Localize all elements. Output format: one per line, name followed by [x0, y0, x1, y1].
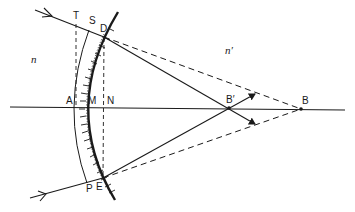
- refracted-ray-bottom: [103, 94, 255, 178]
- label-P: P: [86, 183, 93, 194]
- point-B: [299, 107, 303, 111]
- label-E: E: [96, 181, 103, 192]
- dashed-ray-top-to-B: [104, 37, 301, 109]
- label-D: D: [100, 23, 107, 34]
- point-B-prime: [227, 106, 231, 110]
- label-A: A: [66, 95, 73, 106]
- incident-ray-top-arrow-icon: [42, 8, 52, 17]
- label-S: S: [89, 15, 96, 26]
- optical-axis: [10, 107, 345, 110]
- label-N: N: [107, 95, 114, 106]
- label-B-prime: B′: [226, 94, 235, 105]
- label-T: T: [73, 10, 79, 21]
- dashed-ray-bottom-to-B: [103, 109, 301, 178]
- label-index-n-prime: n′: [225, 44, 234, 56]
- refracting-surface: [79, 12, 118, 200]
- label-B: B: [302, 95, 309, 106]
- refraction-diagram: T S D A M N P E B′ B n n′: [0, 0, 355, 212]
- label-index-n: n: [31, 53, 37, 65]
- label-M: M: [88, 95, 96, 106]
